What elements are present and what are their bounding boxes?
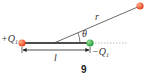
angle-label-theta: θ — [82, 28, 87, 39]
negative-charge-label: −Q1 — [92, 46, 109, 58]
separation-label-l: l — [54, 52, 57, 63]
angle-arc — [78, 33, 80, 43]
dipole-diagram: +Q1 −Q1 r θ l 9 — [0, 0, 145, 76]
figure-number: 9 — [81, 64, 87, 75]
positive-charge-label: +Q1 — [1, 33, 18, 45]
positive-charge-sphere — [18, 39, 25, 46]
distance-label-r: r — [95, 11, 99, 22]
field-point-sphere — [136, 2, 143, 9]
